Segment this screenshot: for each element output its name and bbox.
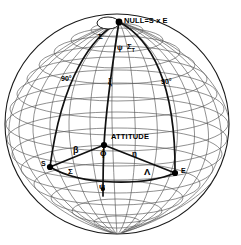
- ninety-right-label: 90°: [161, 78, 172, 85]
- apex-loop: [97, 17, 119, 29]
- eta-label: η: [132, 150, 137, 158]
- null-point-label: NULL=S x E: [124, 17, 168, 25]
- sigma-lower-left-label: Σ: [68, 168, 73, 176]
- sigma-left-label: Σ: [98, 33, 103, 41]
- figure-canvas: NULL=S x E Σ ψ ΣT 90° 90° ξ ATTITUDE ϕ η…: [0, 0, 241, 245]
- e-point-dot: [172, 170, 178, 176]
- attitude-label: ATTITUDE: [111, 133, 149, 141]
- sphere-diagram: [0, 0, 241, 245]
- beta-label: β: [73, 146, 79, 155]
- psi-bottom-label: ψ: [99, 183, 105, 191]
- xi-label: ξ: [108, 78, 112, 87]
- s-point-label: S: [41, 160, 46, 167]
- ninety-left-label: 90°: [61, 75, 72, 82]
- sigma-subscript-label: ΣT: [127, 43, 135, 54]
- sigma-subscript-index: T: [132, 48, 135, 53]
- s-point-dot: [47, 164, 53, 170]
- lambda-label: Λ: [144, 167, 150, 177]
- null-point-dot: [116, 19, 123, 26]
- phi-label: ϕ: [100, 149, 106, 158]
- e-point-label: E: [181, 167, 186, 174]
- psi-right-label: ψ: [117, 44, 123, 52]
